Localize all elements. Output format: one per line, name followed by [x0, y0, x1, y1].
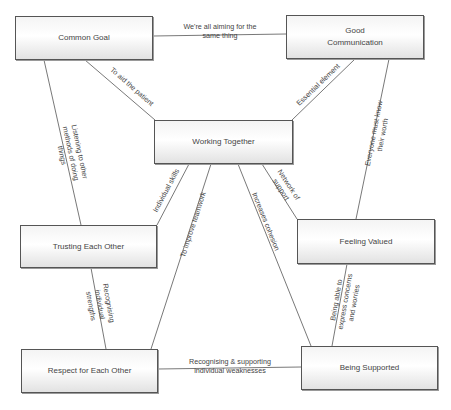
label-line: individual weaknesses	[165, 366, 295, 375]
label-line: same thing	[160, 31, 280, 40]
node-label: Being Supported	[340, 362, 400, 374]
node-trusting-each-other: Trusting Each Other	[20, 225, 157, 268]
node-label: Trusting Each Other	[53, 241, 124, 253]
node-label: Common Goal	[58, 32, 110, 44]
node-label: Feeling Valued	[340, 236, 393, 248]
node-good-communication: Good Communication	[286, 15, 424, 59]
node-label-line1: Good	[345, 25, 365, 37]
node-label: Working Together	[192, 136, 254, 148]
edge-label-aiming: We're all aiming for the same thing	[160, 22, 280, 40]
node-label-line2: Communication	[327, 37, 383, 49]
node-working-together: Working Together	[154, 120, 293, 164]
node-label: Respect for Each Other	[48, 365, 132, 377]
edge-label-weaknesses: Recognising & supporting individual weak…	[165, 357, 295, 375]
node-common-goal: Common Goal	[15, 16, 153, 60]
node-being-supported: Being Supported	[301, 346, 438, 390]
node-feeling-valued: Feeling Valued	[297, 219, 435, 264]
label-line: We're all aiming for the	[160, 22, 280, 31]
label-line: Recognising & supporting	[165, 357, 295, 366]
edge-essential	[292, 59, 355, 120]
node-respect-for-each-other: Respect for Each Other	[21, 349, 158, 393]
edge-aid-patient	[85, 60, 155, 120]
teamwork-concept-map: Common Goal Good Communication Working T…	[0, 0, 451, 410]
